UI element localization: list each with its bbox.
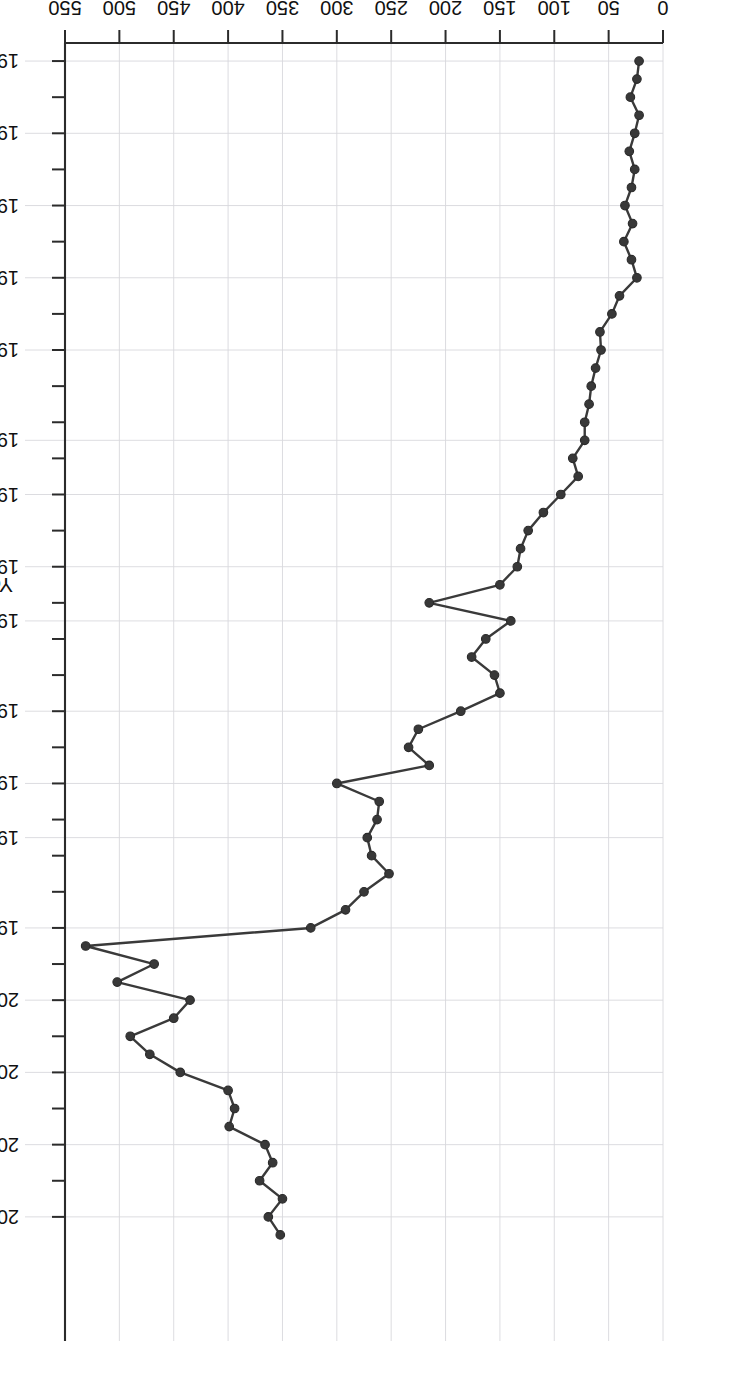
year-axis-tick-label: 1974 — [0, 483, 19, 505]
data-point-marker — [496, 689, 505, 698]
data-point-marker — [373, 815, 382, 824]
value-axis-tick-label: 100 — [538, 0, 571, 19]
x-axis-title: Year — [0, 574, 13, 597]
data-point-marker — [516, 544, 525, 553]
data-point-marker — [628, 219, 637, 228]
value-axis-tick-label: 150 — [483, 0, 516, 19]
data-point-marker — [627, 183, 636, 192]
axis-lines — [65, 43, 663, 1341]
year-axis-tick-label: 2006 — [0, 1061, 19, 1083]
year-axis-tick-label: 1950 — [0, 50, 19, 72]
data-series — [81, 57, 643, 1239]
data-point-marker — [481, 635, 490, 644]
data-point-marker — [367, 851, 376, 860]
x-axis-tick-labels: 1950195419581962196619711974197819811986… — [0, 50, 19, 1228]
data-point-marker — [169, 1014, 178, 1023]
data-point-marker — [625, 147, 634, 156]
data-point-marker — [264, 1213, 273, 1222]
line-chart-figure: 1950195419581962196619711974197819811986… — [0, 0, 753, 1384]
data-point-marker — [608, 310, 617, 319]
axis-titles: Number of disasters per continentYear — [0, 0, 522, 597]
data-point-marker — [425, 761, 434, 770]
data-point-marker — [506, 617, 515, 626]
value-axis-tick-label: 450 — [157, 0, 190, 19]
value-axis-tick-label: 250 — [374, 0, 407, 19]
year-axis-tick-label: 1958 — [0, 195, 19, 217]
data-point-marker — [268, 1158, 277, 1167]
data-point-marker — [414, 725, 423, 734]
value-axis-tick-label: 200 — [429, 0, 462, 19]
year-axis-tick-label: 1998 — [0, 917, 19, 939]
year-axis-tick-label: 1986 — [0, 700, 19, 722]
data-point-marker — [176, 1068, 185, 1077]
year-axis-tick-label: 1990 — [0, 772, 19, 794]
data-point-marker — [585, 400, 594, 409]
data-point-marker — [524, 526, 533, 535]
data-point-marker — [490, 671, 499, 680]
data-point-marker — [597, 346, 606, 355]
grid-lines — [25, 43, 663, 1341]
data-point-marker — [113, 978, 122, 987]
year-axis-tick-label: 1954 — [0, 122, 19, 144]
data-point-marker — [81, 942, 90, 951]
data-point-marker — [146, 1050, 155, 1059]
year-axis-tick-label: 1971 — [0, 429, 19, 451]
data-point-marker — [456, 707, 465, 716]
figure-page: 1950195419581962196619711974197819811986… — [0, 0, 753, 1384]
data-point-marker — [306, 924, 315, 933]
year-axis-tick-label: 2010 — [0, 1134, 19, 1156]
data-point-marker — [261, 1140, 270, 1149]
data-point-marker — [591, 364, 600, 373]
data-point-marker — [276, 1231, 285, 1240]
data-point-marker — [225, 1122, 234, 1131]
disasters-line-chart: 1950195419581962196619711974197819811986… — [0, 0, 753, 1384]
data-point-marker — [620, 237, 629, 246]
data-point-marker — [425, 599, 434, 608]
data-point-marker — [626, 93, 635, 102]
data-point-marker — [224, 1086, 233, 1095]
data-point-marker — [580, 436, 589, 445]
data-point-marker — [404, 743, 413, 752]
value-axis-tick-label: 50 — [598, 0, 620, 19]
data-point-marker — [126, 1032, 135, 1041]
data-point-marker — [278, 1195, 287, 1204]
data-point-marker — [496, 580, 505, 589]
data-point-marker — [539, 508, 548, 517]
data-point-marker — [150, 960, 159, 969]
rotated-figure-wrapper: 1950195419581962196619711974197819811986… — [0, 0, 753, 1384]
data-point-marker — [568, 454, 577, 463]
year-axis-tick-label: 2014 — [0, 1206, 19, 1228]
data-point-marker — [333, 779, 342, 788]
data-point-marker — [633, 75, 642, 84]
year-axis-tick-label: 1966 — [0, 339, 19, 361]
x-axis-ticks — [52, 61, 65, 1217]
data-point-marker — [630, 165, 639, 174]
data-point-marker — [580, 418, 589, 427]
value-axis-tick-label: 300 — [320, 0, 353, 19]
data-point-marker — [574, 472, 583, 481]
value-axis-tick-label: 350 — [266, 0, 299, 19]
data-point-marker — [557, 490, 566, 499]
y-axis-tick-labels: 050100150200250300350400450500550 — [48, 0, 668, 19]
value-axis-tick-label: 400 — [211, 0, 244, 19]
data-point-marker — [363, 833, 372, 842]
data-point-marker — [627, 255, 636, 264]
data-point-marker — [513, 562, 522, 571]
data-point-marker — [621, 201, 630, 210]
y-axis-ticks — [65, 30, 663, 43]
data-point-marker — [375, 797, 384, 806]
data-point-marker — [596, 328, 605, 337]
data-point-marker — [615, 292, 624, 301]
data-point-marker — [186, 996, 195, 1005]
series-polyline — [86, 61, 639, 1235]
year-axis-tick-label: 1981 — [0, 610, 19, 632]
value-axis-tick-label: 550 — [48, 0, 81, 19]
data-point-marker — [341, 906, 350, 915]
year-axis-tick-label: 1993 — [0, 827, 19, 849]
data-point-marker — [633, 273, 642, 282]
data-point-marker — [255, 1176, 264, 1185]
data-point-marker — [630, 129, 639, 138]
value-axis-tick-label: 500 — [103, 0, 136, 19]
data-point-marker — [635, 111, 644, 120]
data-point-marker — [635, 57, 644, 66]
